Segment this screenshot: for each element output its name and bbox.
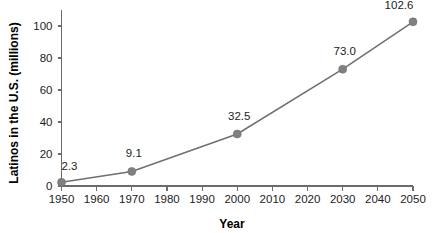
x-tick-label: 1980 <box>154 193 180 205</box>
line-chart: 020406080100 195019601970198019902000201… <box>0 0 446 233</box>
x-tick-label: 2050 <box>400 193 426 205</box>
data-point-marker <box>128 167 136 175</box>
y-tick-label: 100 <box>33 20 52 32</box>
data-point-value-label: 9.1 <box>126 147 142 159</box>
y-tick-label: 20 <box>40 148 53 160</box>
data-point-value-label: 2.3 <box>62 160 78 172</box>
data-point-value-label: 73.0 <box>334 45 356 57</box>
x-tick-label: 1960 <box>84 193 110 205</box>
x-tick-label: 1950 <box>49 193 75 205</box>
y-tick-label: 40 <box>40 116 53 128</box>
data-point-marker <box>339 65 347 73</box>
y-tick-label: 60 <box>40 84 53 96</box>
chart-container: 020406080100 195019601970198019902000201… <box>0 0 446 233</box>
y-tick-label: 0 <box>46 180 52 192</box>
y-tick-label: 80 <box>40 52 53 64</box>
x-tick-label: 2040 <box>365 193 391 205</box>
x-tick-label: 2010 <box>260 193 286 205</box>
y-axis-title: Latinos in the U.S. (millions) <box>7 22 21 183</box>
x-tick-label: 2000 <box>224 193 250 205</box>
x-tick-label: 1990 <box>189 193 215 205</box>
data-point-labels: 2.39.132.573.0102.6 <box>62 0 414 172</box>
x-tick-label: 2030 <box>330 193 356 205</box>
data-point-value-label: 102.6 <box>385 0 414 11</box>
series-line <box>62 22 414 182</box>
x-axis-ticks: 1950196019701980199020002010202020302040… <box>49 186 426 205</box>
x-axis-title: Year <box>219 217 245 231</box>
x-tick-label: 2020 <box>295 193 321 205</box>
data-point-value-label: 32.5 <box>228 110 250 122</box>
x-tick-label: 1970 <box>119 193 145 205</box>
y-axis-ticks: 020406080100 <box>33 20 61 192</box>
data-point-marker <box>58 178 66 186</box>
data-point-markers <box>58 18 418 186</box>
data-point-marker <box>409 18 417 26</box>
data-point-marker <box>233 130 241 138</box>
